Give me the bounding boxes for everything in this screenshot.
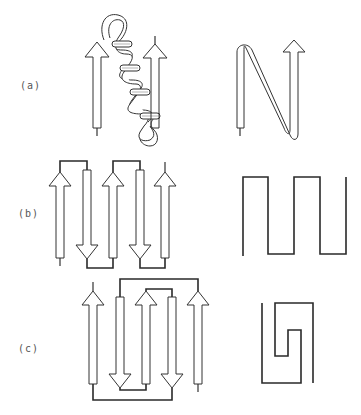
hairpin-loop [120,384,146,390]
protein-motif-diagram [0,0,361,415]
panel-a-topology [237,40,305,139]
beta-strand-arrow [76,170,98,259]
beta-strand-arrow [187,291,209,384]
panel-a-cartoon [85,15,167,146]
beta-strand-arrow [129,170,151,259]
beta-strand-arrow [154,172,176,258]
greek-key-loop [93,384,172,400]
beta-strand-arrow [109,297,131,388]
beta-strand-arrow [135,291,157,384]
beta-strand-arrow [161,297,183,388]
panel-c-cartoon [82,279,209,400]
beta-strand-arrow [102,172,124,258]
panel-c-topology [262,303,313,383]
greek-key-loop [120,279,198,297]
panel-b-cartoon [49,161,176,268]
beta-strand-arrow [82,291,104,384]
beta-strand-arrow [49,172,71,258]
beta-strand-arrow [85,42,109,128]
hairpin-loop [87,258,113,268]
panel-b-topology [243,177,346,256]
hairpin-loop [140,258,165,268]
